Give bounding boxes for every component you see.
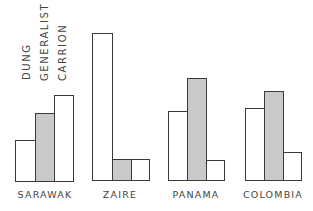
bar-colombia-carrion — [283, 152, 302, 181]
category-label-colombia: COLOMBIA — [233, 189, 313, 200]
bar-sarawak-generalist — [35, 113, 55, 182]
bar-panama-dung — [168, 111, 188, 181]
bar-zaire-dung — [92, 33, 113, 181]
legend-label-carrion: CARRION — [57, 24, 68, 81]
bar-panama-generalist — [187, 78, 207, 181]
bar-zaire-generalist — [112, 159, 132, 181]
bar-sarawak-dung — [15, 140, 36, 182]
bar-colombia-generalist — [264, 91, 284, 181]
bar-panama-carrion — [206, 160, 225, 181]
grouped-bar-chart: DUNG GENERALIST CARRION SARAWAK ZAIRE PA… — [0, 0, 313, 211]
category-label-zaire: ZAIRE — [80, 189, 160, 200]
category-label-panama: PANAMA — [156, 189, 236, 200]
bar-zaire-carrion — [131, 159, 150, 181]
legend-label-generalist: GENERALIST — [39, 3, 50, 81]
bar-colombia-dung — [245, 108, 265, 181]
bar-sarawak-carrion — [54, 95, 74, 182]
legend-label-dung: DUNG — [21, 43, 32, 80]
category-label-sarawak: SARAWAK — [5, 189, 85, 200]
